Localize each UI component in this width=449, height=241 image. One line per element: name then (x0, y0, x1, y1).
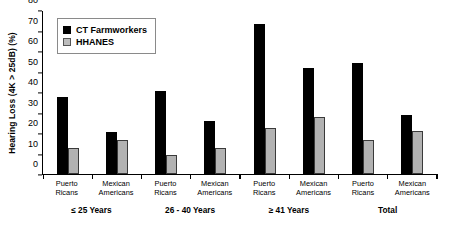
bar-ct-farmworkers (57, 97, 68, 174)
y-axis-tick (38, 174, 42, 175)
bar-pair (303, 68, 325, 174)
category-label: PuertoRicans (240, 179, 289, 197)
y-axis-tick-label: 40 (16, 77, 38, 87)
y-axis-tick-label: 30 (16, 98, 38, 108)
bar-ct-farmworkers (352, 63, 363, 174)
black-square-marker (63, 26, 71, 34)
bar-ct-farmworkers (106, 132, 117, 174)
y-axis-tick-label: 60 (16, 36, 38, 46)
group-label: ≤ 25 Years (42, 205, 141, 215)
category-label: PuertoRicans (42, 179, 91, 197)
y-axis-tick-label: 0 (16, 159, 38, 169)
bar-group (240, 11, 289, 174)
bar-group (339, 11, 388, 174)
category-label-line: Mexican (289, 179, 338, 188)
category-label-line: Ricans (42, 188, 91, 197)
y-axis-tick-label: 70 (16, 16, 38, 26)
bar-chart: Hearing Loss (4K > 25dB) (%) 01020304050… (0, 0, 449, 241)
group-label: ≥ 41 Years (240, 205, 339, 215)
bar-hhanes (363, 140, 374, 174)
group-label: Total (338, 205, 437, 215)
y-axis-tick-label: 80 (16, 0, 38, 5)
bar-ct-farmworkers (155, 91, 166, 174)
category-label: MexicanAmericans (91, 179, 140, 197)
category-label: MexicanAmericans (388, 179, 437, 197)
category-label-line: Ricans (141, 188, 190, 197)
category-label-line: Puerto (338, 179, 387, 188)
legend-item: CT Farmworkers (63, 25, 147, 35)
category-label-line: Mexican (190, 179, 239, 188)
y-axis-tick (38, 72, 42, 73)
category-label-line: Puerto (141, 179, 190, 188)
category-axis-labels: PuertoRicansMexicanAmericansPuertoRicans… (42, 179, 437, 197)
category-label: MexicanAmericans (289, 179, 338, 197)
y-axis-tick (38, 31, 42, 32)
bar-pair (106, 132, 128, 174)
category-label-line: Americans (190, 188, 239, 197)
bar-pair (155, 91, 177, 174)
bar-ct-farmworkers (254, 24, 265, 174)
bar-ct-farmworkers (303, 68, 314, 174)
y-axis-tick (38, 133, 42, 134)
category-label-line: Americans (91, 188, 140, 197)
category-label-line: Mexican (388, 179, 437, 188)
category-label: MexicanAmericans (190, 179, 239, 197)
bar-hhanes (412, 131, 423, 174)
bar-hhanes (215, 148, 226, 174)
bar-pair (254, 24, 276, 174)
gray-square-marker (63, 38, 71, 46)
legend-item: HHANES (63, 37, 147, 47)
y-axis-tick-labels: 01020304050607080 (14, 0, 38, 175)
bar-pair (352, 63, 374, 174)
y-axis-tick (38, 51, 42, 52)
y-axis-tick-label: 10 (16, 139, 38, 149)
y-axis-tick-label: 50 (16, 57, 38, 67)
legend-label: HHANES (76, 37, 114, 47)
bar-hhanes (314, 117, 325, 174)
bar-ct-farmworkers (204, 121, 215, 174)
group-axis-labels: ≤ 25 Years26 - 40 Years≥ 41 YearsTotal (42, 205, 437, 215)
bar-group (289, 11, 338, 174)
category-label: PuertoRicans (141, 179, 190, 197)
category-label-line: Americans (289, 188, 338, 197)
bar-pair (204, 121, 226, 174)
chart-legend: CT FarmworkersHHANES (57, 18, 156, 54)
category-label-line: Mexican (91, 179, 140, 188)
bar-hhanes (166, 155, 177, 174)
category-label-line: Puerto (240, 179, 289, 188)
category-label-line: Ricans (240, 188, 289, 197)
bar-hhanes (117, 140, 128, 174)
y-axis-tick (38, 154, 42, 155)
y-axis-tick (38, 92, 42, 93)
bar-hhanes (68, 148, 79, 174)
bar-group (191, 11, 240, 174)
legend-label: CT Farmworkers (76, 25, 147, 35)
bar-pair (401, 115, 423, 174)
bar-pair (57, 97, 79, 174)
y-axis-tick (38, 10, 42, 11)
group-label: 26 - 40 Years (141, 205, 240, 215)
bar-hhanes (265, 128, 276, 174)
category-label: PuertoRicans (338, 179, 387, 197)
bar-group (388, 11, 437, 174)
category-label-line: Americans (388, 188, 437, 197)
bar-ct-farmworkers (401, 115, 412, 174)
y-axis-tick (38, 113, 42, 114)
y-axis-tick-label: 20 (16, 118, 38, 128)
category-label-line: Puerto (42, 179, 91, 188)
category-label-line: Ricans (338, 188, 387, 197)
